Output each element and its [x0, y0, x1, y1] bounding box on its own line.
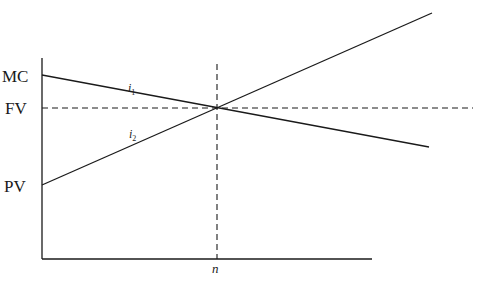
i1-label: i1	[128, 81, 135, 97]
diagram-canvas: MC FV PV i1 i2 n	[0, 0, 483, 286]
n-label: n	[212, 261, 219, 276]
fv-label: FV	[5, 99, 27, 118]
i2-line	[42, 13, 432, 185]
i1-line	[42, 75, 429, 147]
i2-label: i2	[129, 127, 136, 143]
mc-label: MC	[2, 67, 28, 86]
pv-label: PV	[4, 177, 26, 196]
